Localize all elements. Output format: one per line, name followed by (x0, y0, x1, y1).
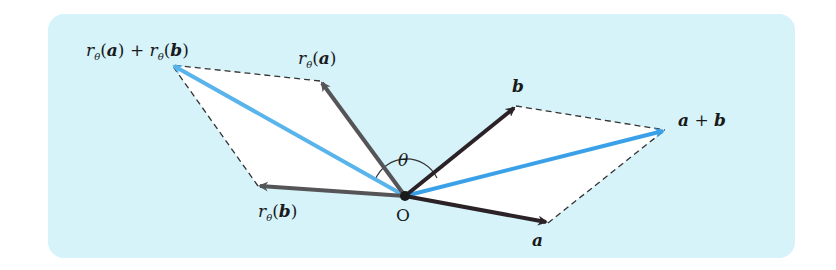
label-a: a (532, 232, 543, 249)
label-b: b (512, 78, 524, 95)
label-r-theta-sum: rθ(a) + rθ(b) (86, 42, 189, 62)
label-theta: θ (398, 152, 408, 169)
label-a-plus-b: a + b (678, 112, 726, 129)
label-origin: O (396, 207, 410, 224)
label-r-theta-b: rθ(b) (258, 203, 297, 223)
label-r-theta-a: rθ(a) (298, 50, 336, 70)
origin-point (400, 191, 410, 201)
